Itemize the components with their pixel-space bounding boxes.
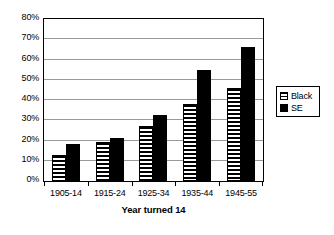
legend: Black SE xyxy=(276,86,320,117)
x-axis-tick xyxy=(262,182,263,186)
y-axis-tick-label: 30% xyxy=(22,114,39,123)
x-axis-tick xyxy=(219,182,220,186)
x-axis-category-label: 1915-24 xyxy=(88,188,132,199)
x-axis-category-label: 1925-34 xyxy=(132,188,176,199)
x-axis-title: Year turned 14 xyxy=(44,204,263,215)
bar-group xyxy=(88,19,132,181)
bar-group xyxy=(132,19,176,181)
y-axis-tick-label: 60% xyxy=(22,54,39,63)
bar-black-1905-14 xyxy=(52,155,66,181)
bar-group xyxy=(219,19,263,181)
bar-se-1945-55 xyxy=(241,47,255,181)
bar-group xyxy=(44,19,88,181)
bar-black-1935-44 xyxy=(183,104,197,181)
x-axis-tick xyxy=(44,182,45,186)
y-axis-tick-label: 0% xyxy=(26,175,39,184)
y-axis-tick-label: 10% xyxy=(22,155,39,164)
x-axis-ticks xyxy=(44,182,263,186)
y-axis-tick-label: 70% xyxy=(22,33,39,42)
x-axis-tick xyxy=(132,182,133,186)
bar-se-1905-14 xyxy=(66,144,80,181)
y-axis: 80% 70% 60% 50% 40% 30% 20% 10% 0% xyxy=(0,13,42,187)
x-axis-category-label: 1945-55 xyxy=(219,188,263,199)
bars-container xyxy=(44,19,263,181)
x-axis-category-label: 1905-14 xyxy=(44,188,88,199)
y-axis-tick-label: 50% xyxy=(22,74,39,83)
x-axis-tick xyxy=(175,182,176,186)
y-axis-tick-label: 40% xyxy=(22,94,39,103)
legend-item-black: Black xyxy=(280,90,319,102)
bar-black-1945-55 xyxy=(227,88,241,181)
bar-black-1915-24 xyxy=(96,142,110,181)
y-axis-tick-label: 80% xyxy=(22,13,39,22)
legend-item-se: SE xyxy=(280,102,319,114)
legend-swatch-solid-icon xyxy=(280,104,288,112)
bar-se-1915-24 xyxy=(110,138,124,181)
legend-label: SE xyxy=(291,104,303,113)
bar-chart: 80% 70% 60% 50% 40% 30% 20% 10% 0% xyxy=(0,0,334,235)
bar-black-1925-34 xyxy=(139,126,153,181)
bar-se-1935-44 xyxy=(197,70,211,181)
legend-swatch-hatch-icon xyxy=(280,92,288,100)
y-axis-tick-label: 20% xyxy=(22,135,39,144)
x-axis-labels: 1905-14 1915-24 1925-34 1935-44 1945-55 xyxy=(44,188,263,199)
x-axis-tick xyxy=(88,182,89,186)
legend-label: Black xyxy=(291,92,312,101)
x-axis-category-label: 1935-44 xyxy=(175,188,219,199)
bar-se-1925-34 xyxy=(153,115,167,181)
bar-group xyxy=(175,19,219,181)
